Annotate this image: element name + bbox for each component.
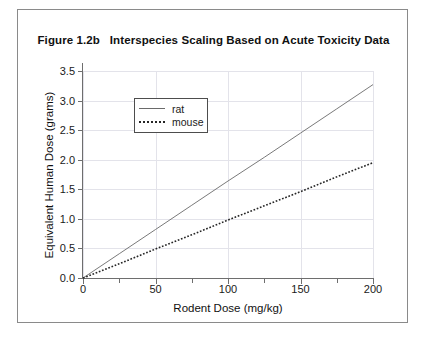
- plot-series-svg: [83, 71, 373, 278]
- y-tick-label: 3.0: [60, 95, 75, 107]
- y-axis-title: Equivalent Human Dose (grams): [40, 71, 58, 278]
- plot-area: 0.00.51.01.52.02.53.03.5 050100150200: [83, 71, 373, 278]
- y-axis-title-text: Equivalent Human Dose (grams): [43, 91, 55, 258]
- x-tick-mark-minor: [119, 279, 120, 283]
- y-tick-label: 0.5: [60, 242, 75, 254]
- grid-line-vertical: [373, 71, 374, 278]
- chart-title: Figure 1.2b Interspecies Scaling Based o…: [18, 34, 409, 46]
- legend-label-rat: rat: [172, 103, 184, 115]
- legend-swatch-dotted-icon: [139, 121, 165, 123]
- legend-swatch-line-icon: [139, 108, 165, 109]
- legend-item-rat: rat: [139, 102, 203, 115]
- x-tick-mark-minor: [264, 279, 265, 283]
- x-tick-label: 50: [149, 283, 161, 295]
- series-line-mouse: [83, 163, 373, 278]
- x-tick-label: 200: [364, 283, 382, 295]
- y-tick-label: 1.5: [60, 183, 75, 195]
- y-tick-label: 1.0: [60, 213, 75, 225]
- x-axis-title: Rodent Dose (mg/kg): [83, 302, 373, 314]
- legend-label-mouse: mouse: [172, 116, 204, 128]
- x-tick-label: 150: [291, 283, 309, 295]
- x-tick-label: 100: [219, 283, 237, 295]
- legend: rat mouse: [134, 98, 208, 133]
- y-tick-label: 3.5: [60, 65, 75, 77]
- x-tick-mark-minor: [192, 279, 193, 283]
- x-tick-mark-minor: [337, 279, 338, 283]
- y-tick-label: 2.5: [60, 124, 75, 136]
- legend-item-mouse: mouse: [139, 115, 203, 128]
- y-tick-label: 2.0: [60, 154, 75, 166]
- figure-frame: Figure 1.2b Interspecies Scaling Based o…: [17, 9, 408, 323]
- series-line-rat: [83, 85, 373, 278]
- y-tick-label: 0.0: [60, 272, 75, 284]
- x-tick-label: 0: [80, 283, 86, 295]
